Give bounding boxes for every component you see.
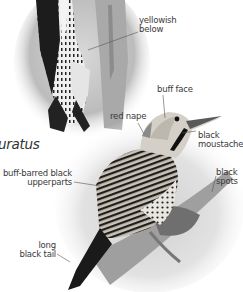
label-line: moustache (198, 140, 243, 149)
scientific-name: uratus (0, 136, 39, 152)
label-buff-face: buff face (157, 85, 193, 94)
label-line: black tail (14, 250, 56, 259)
label-black-spots: black spots (216, 168, 238, 186)
label-yellowish-below: yellowish below (139, 16, 177, 34)
field-guide-illustration: yellowish below buff face red nape black… (0, 0, 243, 292)
label-line: spots (216, 177, 238, 186)
label-line: upperparts (20, 178, 72, 187)
label-red-nape: red nape (110, 112, 146, 121)
label-long-black-tail: long black tail (14, 241, 56, 259)
label-black-moustache: black moustache (198, 131, 243, 149)
label-line: below (139, 25, 177, 34)
label-buff-barred-upperparts: buff-barred black upperparts (20, 169, 72, 187)
